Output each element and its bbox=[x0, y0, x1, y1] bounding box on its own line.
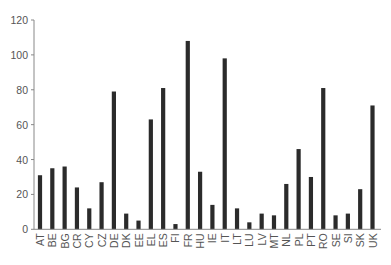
x-category-label: PT bbox=[305, 233, 317, 247]
bar-si bbox=[346, 214, 350, 230]
bar-lt bbox=[235, 208, 239, 229]
x-category-label: CY bbox=[83, 233, 95, 248]
bar-se bbox=[333, 215, 337, 229]
bar-ee bbox=[136, 221, 140, 230]
bar-fr bbox=[186, 41, 190, 229]
y-tick-label: 60 bbox=[16, 119, 28, 131]
bar-es bbox=[161, 88, 165, 229]
bar-lv bbox=[260, 214, 264, 230]
x-category-label: IE bbox=[206, 233, 218, 243]
x-category-label: HU bbox=[194, 233, 206, 248]
x-category-label: NL bbox=[280, 233, 292, 247]
y-tick-label: 20 bbox=[16, 188, 28, 200]
bar-cz bbox=[99, 182, 103, 229]
x-category-label: FI bbox=[169, 233, 181, 242]
bar-at bbox=[38, 175, 42, 229]
x-category-label: EL bbox=[145, 233, 157, 246]
bar-ie bbox=[210, 205, 214, 229]
bar-cr bbox=[75, 187, 79, 229]
bar-bg bbox=[63, 167, 67, 230]
bar-de bbox=[112, 92, 116, 230]
x-category-label: SE bbox=[330, 233, 342, 247]
bar-pl bbox=[297, 149, 301, 229]
bar-be bbox=[50, 168, 54, 229]
x-category-label: SI bbox=[342, 233, 354, 243]
x-category-label: LT bbox=[231, 233, 243, 245]
y-tick-label: 100 bbox=[10, 49, 28, 61]
x-category-label: BE bbox=[46, 233, 58, 247]
bar-lu bbox=[247, 222, 251, 229]
y-tick-label: 120 bbox=[10, 14, 28, 26]
bar-mt bbox=[272, 215, 276, 229]
bars bbox=[38, 41, 375, 229]
bar-nl bbox=[284, 184, 288, 229]
x-category-label: MT bbox=[268, 233, 280, 249]
y-axis: 020406080100120 bbox=[10, 14, 34, 235]
x-category-label: EE bbox=[133, 233, 145, 247]
bar-el bbox=[149, 119, 153, 229]
bar-ro bbox=[321, 88, 325, 229]
bar-sk bbox=[358, 189, 362, 229]
x-category-label: CZ bbox=[96, 233, 108, 248]
y-tick-label: 0 bbox=[22, 223, 28, 235]
bar-fi bbox=[173, 224, 177, 229]
x-category-label: DK bbox=[120, 233, 132, 248]
x-category-label: DE bbox=[108, 233, 120, 248]
bar-hu bbox=[198, 172, 202, 230]
x-category-label: IT bbox=[219, 233, 231, 243]
bar-dk bbox=[124, 214, 128, 230]
bar-pt bbox=[309, 177, 313, 229]
bar-chart: 020406080100120 ATBEBGCRCYCZDEDKEEELESFI… bbox=[0, 0, 391, 265]
x-category-label: ES bbox=[157, 233, 169, 247]
x-category-label: CR bbox=[71, 233, 83, 249]
x-category-label: UK bbox=[367, 233, 379, 248]
x-category-label: FR bbox=[182, 233, 194, 247]
bar-cy bbox=[87, 208, 91, 229]
x-axis: ATBEBGCRCYCZDEDKEEELESFIFRHUIEITLTLULVMT… bbox=[34, 229, 381, 249]
y-tick-label: 80 bbox=[16, 84, 28, 96]
x-category-label: BG bbox=[59, 233, 71, 248]
bar-uk bbox=[370, 105, 374, 229]
x-category-label: RO bbox=[317, 233, 329, 249]
y-tick-label: 40 bbox=[16, 154, 28, 166]
x-category-label: LV bbox=[256, 233, 268, 245]
x-category-label: SK bbox=[354, 233, 366, 247]
bar-it bbox=[223, 58, 227, 229]
x-category-label: AT bbox=[34, 233, 46, 246]
x-category-label: PL bbox=[293, 233, 305, 246]
x-category-label: LU bbox=[243, 233, 255, 246]
